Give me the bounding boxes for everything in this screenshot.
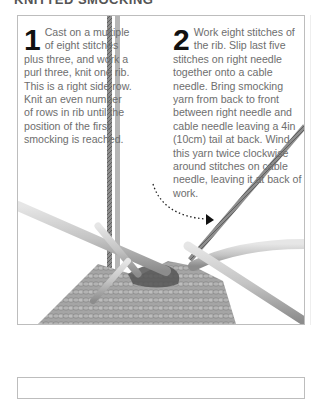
step-1-number: 1: [24, 28, 41, 52]
step-2: 2 Work eight stitches of the rib. Slip l…: [173, 26, 303, 200]
step-2-number: 2: [173, 28, 190, 52]
step-2-text: Work eight stitches of the rib. Slip las…: [173, 26, 301, 199]
adjacent-page-edge: [310, 15, 320, 325]
page-heading: KNITTED SMOCKING: [14, 0, 153, 7]
next-panel: [17, 377, 305, 399]
step-1: 1 Cast on a multiple of eight stitches p…: [24, 26, 132, 147]
instruction-panel: 1 Cast on a multiple of eight stitches p…: [17, 15, 305, 325]
arrow-head-icon: [206, 214, 214, 225]
